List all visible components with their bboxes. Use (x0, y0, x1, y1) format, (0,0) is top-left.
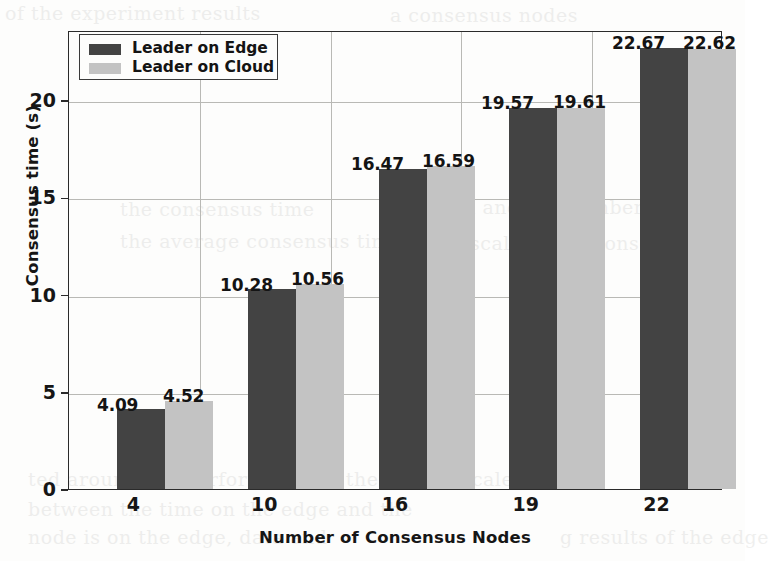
x-tick-label: 16 (382, 493, 408, 515)
legend-swatch-icon (89, 44, 121, 55)
bar-value-label-cloud-10: 10.56 (291, 269, 344, 289)
x-tick-label: 10 (251, 493, 277, 515)
bar-value-label-cloud-22: 22.62 (683, 33, 736, 53)
legend-entry-leader-on-edge[interactable]: Leader on Edge (89, 40, 269, 58)
bar-value-label-edge-16: 16.47 (351, 154, 404, 174)
x-axis-ticks: 4 10 16 19 22 (68, 490, 722, 530)
bar-value-label-edge-4: 4.09 (97, 395, 138, 415)
x-tick-label: 22 (643, 493, 669, 515)
bar-cloud-10 (296, 284, 344, 489)
bar-cloud-19 (557, 108, 605, 490)
bar-value-label-edge-22: 22.67 (612, 33, 665, 53)
x-tick-4: 4 (127, 490, 140, 515)
x-tick-22: 22 (643, 490, 669, 515)
bar-value-label-edge-19: 19.57 (481, 93, 534, 113)
bar-edge-16 (379, 169, 427, 489)
y-tick-mark (61, 295, 68, 297)
bar-cloud-16 (427, 166, 475, 489)
chart-legend[interactable]: Leader on Edge Leader on Cloud (79, 34, 278, 80)
x-axis-title: Number of Consensus Nodes (68, 528, 722, 547)
y-tick-mark (61, 198, 68, 200)
bar-value-label-edge-10: 10.28 (220, 275, 273, 295)
y-axis-title: Consensus time (s) (23, 0, 42, 396)
bar-edge-19 (509, 108, 557, 489)
y-tick-mark (61, 489, 68, 491)
y-tick-mark (61, 392, 68, 394)
bar-value-label-cloud-19: 19.61 (553, 92, 606, 112)
y-tick-label: 0 (43, 478, 58, 500)
bar-cloud-22 (688, 49, 736, 489)
legend-label: Leader on Edge (132, 41, 268, 57)
plot-area: 4.09 4.52 10.28 10.56 16.47 16.59 19.57 … (68, 31, 722, 490)
gridline-y-20 (69, 102, 721, 103)
y-tick-label: 5 (43, 381, 58, 403)
x-tick-19: 19 (513, 490, 539, 515)
x-tick-label: 4 (127, 493, 140, 515)
bar-edge-22 (640, 48, 688, 489)
bar-edge-4 (117, 409, 165, 489)
bar-cloud-4 (165, 401, 213, 489)
bar-value-label-cloud-16: 16.59 (422, 151, 475, 171)
x-tick-label: 19 (513, 493, 539, 515)
legend-swatch-icon (89, 63, 121, 74)
x-tick-10: 10 (251, 490, 277, 515)
legend-label: Leader on Cloud (132, 60, 274, 76)
bar-value-label-cloud-4: 4.52 (163, 386, 204, 406)
bar-edge-10 (248, 289, 296, 489)
x-tick-16: 16 (382, 490, 408, 515)
y-tick-mark (61, 100, 68, 102)
legend-entry-leader-on-cloud[interactable]: Leader on Cloud (89, 59, 269, 77)
